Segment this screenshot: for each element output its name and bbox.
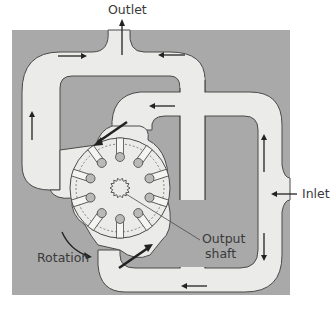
- output-shaft-label-line1: Output: [202, 231, 246, 246]
- vane-motor-diagram: Outlet Inlet Rotation Output shaft: [0, 0, 331, 319]
- output-shaft-label-line2: shaft: [205, 246, 236, 261]
- rotor: [70, 138, 170, 238]
- outlet-label: Outlet: [108, 2, 147, 17]
- vane: [116, 215, 125, 239]
- vane: [116, 138, 125, 162]
- inlet-label: Inlet: [302, 186, 330, 201]
- shaft-region: [181, 200, 205, 267]
- rotation-label: Rotation: [37, 250, 89, 265]
